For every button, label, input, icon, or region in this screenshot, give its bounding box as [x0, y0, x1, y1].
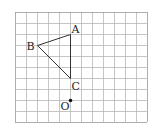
- grid-diagram: A B C O: [0, 0, 165, 133]
- label-c: C: [72, 80, 80, 93]
- label-b: B: [27, 40, 35, 53]
- label-a: A: [71, 23, 81, 36]
- grid: [15, 12, 148, 123]
- label-o: O: [61, 100, 70, 113]
